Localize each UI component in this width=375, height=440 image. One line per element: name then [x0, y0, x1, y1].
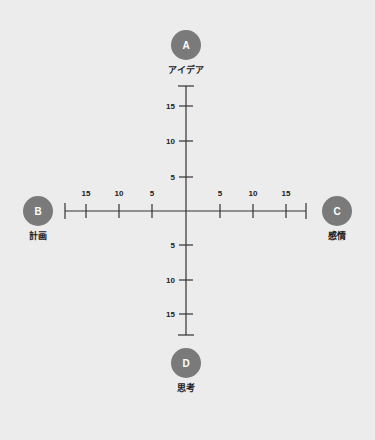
tick-label-right-10: 10	[249, 189, 258, 198]
tick-label-left-15: 15	[82, 189, 91, 198]
node-c-circle: C	[322, 196, 352, 226]
node-c-letter: C	[333, 206, 340, 217]
node-b-letter: B	[34, 206, 41, 217]
tick-label-left-10: 10	[115, 189, 124, 198]
node-d-letter: D	[182, 358, 189, 369]
node-d-circle: D	[171, 348, 201, 378]
tick-label-right-15: 15	[282, 189, 291, 198]
tick-label-top-5: 5	[171, 173, 175, 182]
node-d-label: 思考	[177, 381, 195, 394]
node-a-circle: A	[171, 30, 201, 60]
tick-label-top-10: 10	[166, 137, 175, 146]
node-b-label: 計画	[29, 229, 47, 242]
node-a-letter: A	[182, 40, 189, 51]
node-a-label: アイデア	[168, 63, 204, 76]
tick-label-bottom-5: 5	[171, 241, 175, 250]
tick-label-left-5: 5	[150, 189, 154, 198]
tick-label-right-5: 5	[218, 189, 222, 198]
tick-label-bottom-10: 10	[166, 276, 175, 285]
node-c-label: 感情	[328, 229, 346, 242]
tick-label-top-15: 15	[166, 102, 175, 111]
node-b-circle: B	[23, 196, 53, 226]
tick-label-bottom-15: 15	[166, 310, 175, 319]
